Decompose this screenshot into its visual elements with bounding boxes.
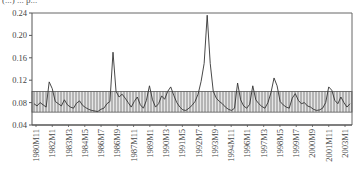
x-tick-label: 1987M11 xyxy=(129,129,139,162)
x-tick-label: 1998M5 xyxy=(275,129,285,158)
x-tick-label: 1984M5 xyxy=(80,129,90,158)
x-tick-label: 1989M1 xyxy=(145,129,155,158)
line-chart: (...) ... p... 0.040.080.120.160.200.24 … xyxy=(0,0,358,172)
x-tick-label: 1997M3 xyxy=(259,129,269,158)
x-tick-label: 2000M9 xyxy=(307,129,317,158)
x-tick-label: 1999M7 xyxy=(291,129,301,158)
y-tick-label: 0.12 xyxy=(12,75,27,85)
x-tick-label: 1990M3 xyxy=(161,129,171,158)
y-axis: 0.040.080.120.160.200.24 xyxy=(12,8,32,130)
y-tick-label: 0.04 xyxy=(12,120,28,130)
x-tick-label: 1986M7 xyxy=(96,129,106,158)
x-tick-label: 1993M9 xyxy=(210,129,220,158)
x-tick-label: 1992M7 xyxy=(194,129,204,158)
x-tick-label: 1991M5 xyxy=(177,129,187,158)
y-tick-label: 0.16 xyxy=(12,53,27,63)
x-tick-label: 1994M11 xyxy=(226,129,236,162)
x-axis: 1980M111982M11983M31984M51986M71986M9198… xyxy=(31,125,350,162)
x-tick-label: 1982M1 xyxy=(47,129,57,158)
x-tick-label: 1996M1 xyxy=(242,129,252,158)
x-tick-label: 1980M11 xyxy=(31,129,41,162)
y-tick-label: 0.08 xyxy=(12,98,27,108)
x-tick-label: 1986M9 xyxy=(112,129,122,158)
y-tick-label: 0.20 xyxy=(12,30,27,40)
x-tick-label: 1983M3 xyxy=(64,129,74,158)
y-tick-label: 0.24 xyxy=(12,8,28,18)
x-tick-label: 2001M11 xyxy=(324,129,334,162)
chart-title-fragment: (...) ... p... xyxy=(2,0,37,5)
x-tick-label: 2003M1 xyxy=(340,129,350,158)
